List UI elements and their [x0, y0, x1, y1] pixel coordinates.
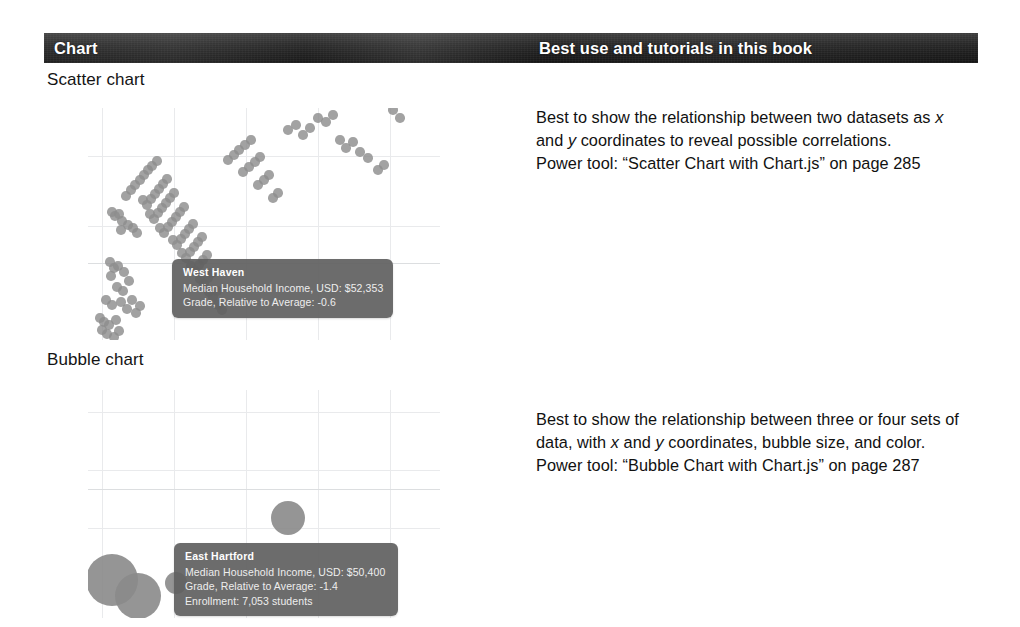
gridline-horizontal	[88, 412, 440, 413]
description-line-1: Best to show the relationship between tw…	[536, 106, 976, 129]
header-column-best-use: Best use and tutorials in this book	[539, 33, 812, 63]
scatter-point[interactable]	[305, 123, 315, 133]
scatter-point[interactable]	[135, 301, 145, 311]
scatter-point[interactable]	[255, 152, 265, 162]
scatter-point[interactable]	[379, 160, 389, 170]
tooltip-row-income: Median Household Income, USD: $52,353	[183, 281, 383, 295]
scatter-point[interactable]	[291, 120, 301, 130]
section-label-bubble-chart: Bubble chart	[47, 350, 144, 370]
gridline-horizontal	[88, 528, 440, 529]
scatter-point[interactable]	[169, 188, 179, 198]
scatter-point[interactable]	[246, 135, 256, 145]
scatter-point[interactable]	[273, 188, 283, 198]
scatter-point[interactable]	[124, 276, 134, 286]
scatter-point[interactable]	[111, 315, 121, 325]
description-line-2: data, with x and y coordinates, bubble s…	[536, 431, 976, 454]
gridline-vertical	[102, 108, 103, 340]
tooltip-row-enrollment: Enrollment: 7,053 students	[185, 594, 388, 608]
scatter-chart-description: Best to show the relationship between tw…	[536, 106, 976, 175]
scatter-point[interactable]	[197, 232, 207, 242]
scatter-point[interactable]	[395, 113, 405, 123]
tooltip-row-grade: Grade, Relative to Average: -1.4	[185, 579, 388, 593]
scatter-point[interactable]	[114, 326, 124, 336]
power-tool-line: Power tool: “Bubble Chart with Chart.js”…	[536, 454, 976, 477]
bubble-point[interactable]	[271, 501, 305, 535]
description-line-1: Best to show the relationship between th…	[536, 408, 976, 431]
scatter-point[interactable]	[152, 156, 162, 166]
bubble-chart-tooltip: East Hartford Median Household Income, U…	[174, 543, 398, 616]
gridline-horizontal	[88, 470, 440, 471]
scatter-point[interactable]	[116, 225, 126, 235]
scatter-point[interactable]	[118, 286, 128, 296]
section-label-scatter-chart: Scatter chart	[47, 70, 145, 90]
axis-line	[88, 489, 440, 490]
scatter-point[interactable]	[162, 174, 172, 184]
bubble-chart-description: Best to show the relationship between th…	[536, 408, 976, 477]
tooltip-title: West Haven	[183, 266, 383, 278]
tooltip-row-income: Median Household Income, USD: $50,400	[185, 565, 388, 579]
bubble-point[interactable]	[115, 573, 161, 618]
scatter-point[interactable]	[328, 110, 338, 120]
scatter-point[interactable]	[179, 202, 189, 212]
gridline-horizontal	[88, 226, 440, 227]
description-line-2: and y coordinates to reveal possible cor…	[536, 129, 976, 152]
scatter-point[interactable]	[106, 271, 116, 281]
power-tool-line: Power tool: “Scatter Chart with Chart.js…	[536, 152, 976, 175]
scatter-point[interactable]	[188, 219, 198, 229]
tooltip-row-grade: Grade, Relative to Average: -0.6	[183, 295, 383, 309]
table-header-bar: Chart Best use and tutorials in this boo…	[44, 33, 978, 63]
scatter-point[interactable]	[264, 170, 274, 180]
scatter-point[interactable]	[348, 137, 358, 147]
scatter-point[interactable]	[132, 228, 142, 238]
header-column-chart: Chart	[54, 33, 98, 63]
scatter-chart-tooltip: West Haven Median Household Income, USD:…	[172, 259, 393, 318]
scatter-point[interactable]	[363, 153, 373, 163]
tooltip-title: East Hartford	[185, 550, 388, 562]
